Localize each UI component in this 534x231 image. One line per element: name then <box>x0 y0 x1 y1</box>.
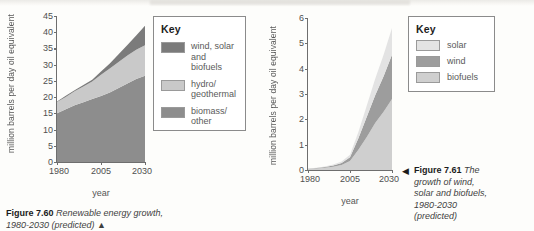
right-key-swatch-wind <box>416 56 440 67</box>
left-x-tick-label: 1980 <box>49 167 69 176</box>
left-y-tick <box>54 146 57 147</box>
left-x-tick <box>145 162 146 165</box>
right-key-label-solar: solar <box>447 40 467 51</box>
figure-page: million barrels per day oil equivalent 4… <box>0 0 534 231</box>
left-chart-y-axis-label: million barrels per day oil equivalent <box>6 14 28 154</box>
left-x-tick <box>57 162 58 165</box>
right-y-tick-label: 6 <box>299 14 304 23</box>
left-chart-plot-area: 45 40 35 30 25 20 15 10 5 0 1980 2005 <box>57 16 145 162</box>
right-key-item-solar: solar <box>416 40 487 51</box>
figure-7-61: million barrels per day oil equivalent 6… <box>262 0 534 231</box>
left-y-tick <box>54 130 57 131</box>
right-y-tick <box>305 145 308 146</box>
right-x-tick <box>308 170 309 173</box>
left-x-tick-label: 2005 <box>91 167 111 176</box>
left-key-item-biomass-other: biomass/ other <box>161 106 238 127</box>
left-y-tick <box>54 48 57 49</box>
left-key-label-hydro-geothermal: hydro/ geothermal <box>191 79 236 100</box>
figure-7-60-caption-text: Renewable energy growth, <box>54 208 164 218</box>
right-chart-key: Key solar wind biofuels <box>408 16 495 92</box>
left-key-item-wind-solar-biofuels: wind, solar and biofuels <box>161 41 238 73</box>
right-y-tick-label: 4 <box>299 64 304 73</box>
left-y-tick <box>54 16 57 17</box>
left-y-tick-label: 20 <box>43 93 53 102</box>
right-y-tick <box>305 18 308 19</box>
right-key-title: Key <box>416 23 487 35</box>
left-key-label-biomass-other: biomass/ other <box>191 106 227 127</box>
figure-7-60-caption-number: Figure 7.60 <box>6 208 54 218</box>
right-chart-plot-area: 6 5 4 3 2 1 0 1980 2005 2030 <box>308 18 392 170</box>
figure-7-60-caption: Figure 7.60 Renewable energy growth, 198… <box>6 208 196 231</box>
left-y-tick-label: 35 <box>43 44 53 53</box>
figure-7-60-caption-arrow-icon: ▲ <box>97 220 106 230</box>
right-key-item-wind: wind <box>416 56 487 67</box>
left-y-tick-label: 10 <box>43 125 53 134</box>
right-key-item-biofuels: biofuels <box>416 72 487 83</box>
left-chart-y-axis <box>56 16 57 163</box>
left-y-tick-label: 5 <box>48 141 53 150</box>
right-y-tick-label: 1 <box>299 140 304 149</box>
right-key-label-biofuels: biofuels <box>447 72 478 83</box>
right-y-tick-label: 5 <box>299 39 304 48</box>
left-y-tick <box>54 97 57 98</box>
figure-7-60-caption-line2: 1980-2030 (predicted) <box>6 220 95 230</box>
right-chart-y-axis-label: million barrels per day oil equivalent <box>268 16 290 176</box>
left-key-item-hydro-geothermal: hydro/ geothermal <box>161 79 238 100</box>
left-y-tick-label: 15 <box>43 109 53 118</box>
right-key-label-wind: wind <box>447 56 466 67</box>
left-key-swatch-wind-solar-biofuels <box>161 42 185 53</box>
left-key-swatch-hydro-geothermal <box>161 80 185 91</box>
right-y-tick-label: 2 <box>299 115 304 124</box>
right-chart-x-axis-label: year <box>308 196 392 206</box>
left-y-tick-label: 25 <box>43 76 53 85</box>
left-y-tick-label: 45 <box>43 12 53 21</box>
left-chart-key: Key wind, solar and biofuels hydro/ geot… <box>153 16 246 131</box>
right-y-tick-label: 3 <box>299 90 304 99</box>
right-y-tick <box>305 94 308 95</box>
right-y-tick <box>305 69 308 70</box>
right-y-tick <box>305 43 308 44</box>
left-y-tick-label: 40 <box>43 28 53 37</box>
right-key-swatch-biofuels <box>416 72 440 83</box>
right-x-tick-label: 2005 <box>340 175 360 184</box>
right-x-tick <box>350 170 351 173</box>
figure-7-61-caption-arrow-icon: ◀ <box>402 166 409 178</box>
right-x-tick-label: 1980 <box>300 175 320 184</box>
left-chart-areas <box>57 16 145 162</box>
right-x-tick <box>392 170 393 173</box>
right-chart-areas <box>308 18 392 170</box>
figure-7-60: million barrels per day oil equivalent 4… <box>0 0 262 231</box>
left-chart-x-axis-label: year <box>57 188 145 198</box>
left-y-tick <box>54 81 57 82</box>
left-key-swatch-biomass-other <box>161 107 185 118</box>
figure-7-61-caption-number: Figure 7.61 <box>414 165 462 175</box>
right-x-tick-label: 2030 <box>379 175 399 184</box>
left-y-tick-label: 30 <box>43 60 53 69</box>
left-y-tick <box>54 32 57 33</box>
figure-7-61-caption: Figure 7.61 The growth of wind, solar an… <box>414 165 496 223</box>
left-x-tick <box>101 162 102 165</box>
left-y-tick <box>54 65 57 66</box>
left-key-title: Key <box>161 23 238 35</box>
right-y-tick <box>305 119 308 120</box>
left-key-label-wind-solar-biofuels: wind, solar and biofuels <box>191 41 238 73</box>
left-y-tick <box>54 113 57 114</box>
right-key-swatch-solar <box>416 40 440 51</box>
left-x-tick-label: 2030 <box>132 167 152 176</box>
